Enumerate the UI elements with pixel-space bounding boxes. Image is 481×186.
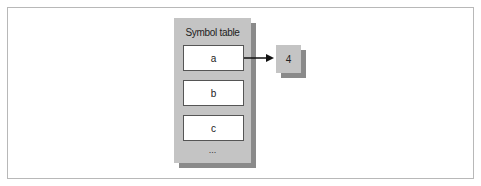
arrow-head-icon	[266, 54, 274, 62]
reference-arrow	[0, 0, 481, 186]
value-label: 4	[286, 54, 292, 65]
value-box: 4	[276, 45, 301, 73]
